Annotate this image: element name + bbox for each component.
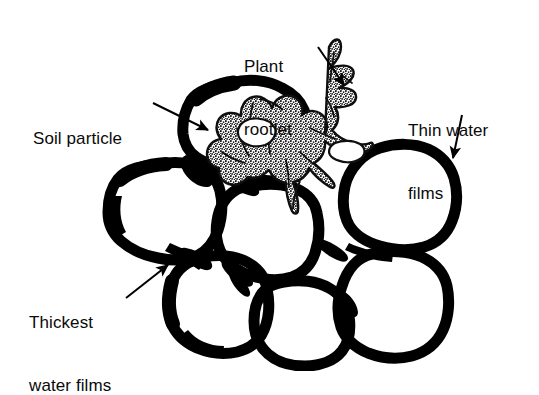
label-thickest-water-films-line1: Thickest bbox=[29, 312, 111, 333]
label-plant-rootlet-line1: Plant bbox=[244, 56, 292, 77]
label-thin-water-films-line1: Thin water bbox=[408, 120, 488, 141]
label-plant-rootlet-line2: rootlet bbox=[244, 119, 292, 140]
label-plant-rootlet: Plant rootlet bbox=[244, 14, 292, 182]
label-thin-water-films-line2: films bbox=[408, 183, 488, 204]
label-thickest-water-films-line2: water films bbox=[29, 375, 111, 395]
thick-film-lower-left bbox=[169, 281, 173, 324]
label-soil-particle: Soil particle bbox=[33, 86, 122, 191]
label-soil-particle-line1: Soil particle bbox=[33, 128, 122, 149]
label-thin-water-films: Thin water films bbox=[408, 78, 488, 246]
label-thickest-water-films: Thickest water films bbox=[29, 270, 111, 395]
arrow-thickest-water-films bbox=[126, 265, 168, 298]
